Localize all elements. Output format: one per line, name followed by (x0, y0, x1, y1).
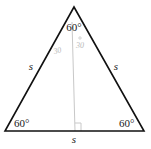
side-label-bottom: s (72, 133, 76, 145)
right-angle-marker (75, 123, 81, 131)
annotation-degree-mark (79, 37, 81, 39)
side-label-right: s (114, 60, 118, 72)
angle-label-top: 60° (66, 21, 81, 33)
annotation-right-half-angle: 30 (75, 41, 84, 50)
annotation-left-half-angle: 30 (51, 45, 62, 56)
angle-label-bottom-right: 60° (119, 117, 134, 129)
angle-label-bottom-left: 60° (14, 117, 29, 129)
altitude-line (72, 22, 75, 131)
side-label-left: s (29, 60, 33, 72)
equilateral-triangle-diagram: 60° 60° 60° s s s 30 30 (0, 0, 151, 149)
